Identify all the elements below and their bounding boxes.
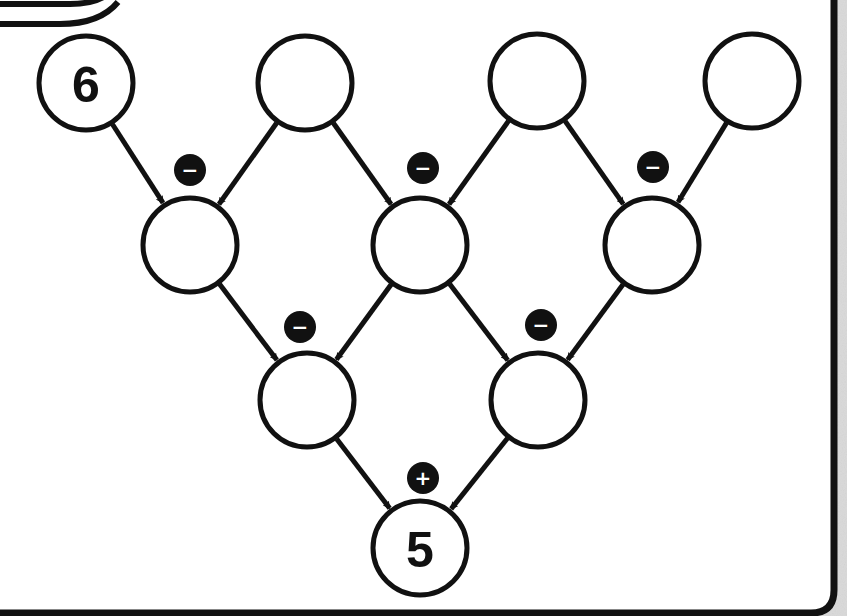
node-r3c2[interactable] [491, 353, 585, 447]
node-value: 5 [406, 522, 434, 578]
minus-operator-icon: − [407, 152, 439, 184]
operator-symbol: − [645, 155, 662, 179]
empty-answer-circle[interactable] [491, 353, 585, 447]
puzzle-diagram: −−−−−+ 65 [0, 0, 847, 616]
minus-operator-icon: − [637, 151, 669, 183]
empty-answer-circle[interactable] [605, 198, 699, 292]
minus-operator-icon: − [525, 309, 557, 341]
node-r2c2[interactable] [373, 198, 467, 292]
node-r1c2[interactable] [258, 36, 352, 130]
plus-operator-icon: + [407, 462, 439, 494]
node-r1c1: 6 [39, 36, 133, 130]
node-r1c4[interactable] [705, 34, 799, 128]
operator-symbol: − [533, 313, 550, 337]
node-r2c1[interactable] [143, 198, 237, 292]
node-r1c3[interactable] [490, 34, 584, 128]
empty-answer-circle[interactable] [258, 36, 352, 130]
node-r4c1: 5 [373, 501, 467, 595]
empty-answer-circle[interactable] [705, 34, 799, 128]
operator-symbol: + [415, 466, 432, 490]
minus-operator-icon: − [284, 311, 316, 343]
empty-answer-circle[interactable] [373, 198, 467, 292]
node-r2c3[interactable] [605, 198, 699, 292]
operator-symbol: − [292, 315, 309, 339]
node-value: 6 [72, 57, 100, 113]
minus-operator-icon: − [174, 154, 206, 186]
operator-symbol: − [415, 156, 432, 180]
node-r3c1[interactable] [260, 353, 354, 447]
empty-answer-circle[interactable] [260, 353, 354, 447]
operator-symbol: − [182, 158, 199, 182]
empty-answer-circle[interactable] [143, 198, 237, 292]
empty-answer-circle[interactable] [490, 34, 584, 128]
